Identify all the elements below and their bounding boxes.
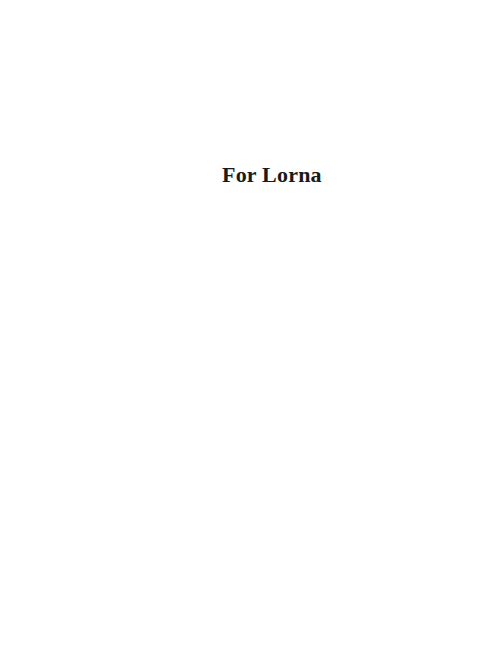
- dedication-text: For Lorna: [222, 162, 322, 188]
- document-page: For Lorna: [0, 0, 489, 668]
